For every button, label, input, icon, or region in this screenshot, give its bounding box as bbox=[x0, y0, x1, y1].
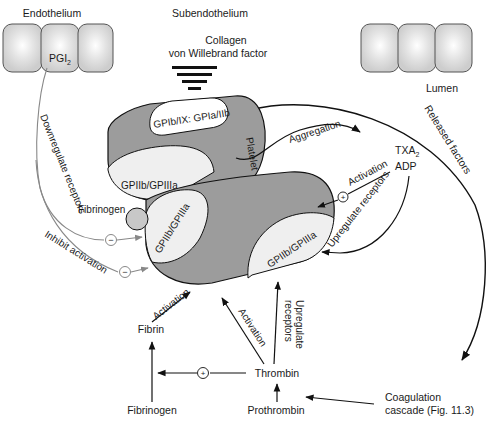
fibrinogen-label: Fibrinogen bbox=[127, 404, 177, 416]
downregulate-arrow bbox=[117, 237, 142, 240]
endothelial-cell bbox=[435, 24, 472, 72]
endothelial-cell bbox=[41, 24, 79, 72]
vwf-label: von Willebrand factor bbox=[169, 47, 268, 59]
inhibit-arrow bbox=[131, 268, 148, 272]
label-subendothelium: Subendothelium bbox=[172, 7, 248, 19]
activation-fibrin-label: Activation bbox=[150, 286, 191, 321]
fibrin-label: Fibrin bbox=[138, 323, 164, 335]
label-endothelium: Endothelium bbox=[23, 7, 82, 19]
adp-label: ADP bbox=[395, 160, 417, 172]
aggregation-label: Aggregation bbox=[287, 118, 342, 145]
released-factors-label: Released factors bbox=[422, 103, 474, 176]
collagen-label: Collagen bbox=[205, 34, 247, 46]
svg-text:+: + bbox=[341, 193, 346, 202]
upregulate-thrombin-arrow bbox=[274, 282, 278, 364]
cascade-arrow bbox=[306, 397, 374, 404]
txa2-label: TXA2 bbox=[395, 144, 419, 158]
upregulate-thrombin-label-1: Upregulate bbox=[294, 300, 305, 349]
endothelial-cell bbox=[78, 24, 113, 72]
cascade-label-1: Coagulation bbox=[385, 391, 441, 403]
svg-text:−: − bbox=[108, 235, 113, 245]
upper-gpiib-label: GPIIb/GPIIIa bbox=[121, 180, 178, 191]
endothelial-cell bbox=[398, 24, 436, 72]
subendothelium-layers-icon bbox=[172, 66, 217, 90]
inhibit-label: Inhibit activation bbox=[43, 228, 110, 275]
thrombin-label: Thrombin bbox=[255, 367, 300, 379]
cascade-label-2: cascade (Fig. 11.3) bbox=[385, 404, 474, 416]
upregulate-thrombin-label-2: receptors bbox=[283, 300, 294, 342]
prothrombin-label: Prothrombin bbox=[247, 404, 304, 416]
platelet-activation-diagram: Endothelium Subendothelium Lumen PGI2 Co… bbox=[0, 0, 493, 422]
endothelial-cell bbox=[3, 24, 42, 72]
endothelial-cells-left bbox=[3, 24, 113, 72]
endothelial-cell bbox=[361, 24, 399, 72]
svg-text:−: − bbox=[122, 267, 127, 277]
fibrinogen-bridge bbox=[126, 208, 148, 230]
downregulate-label: Downregulate receptors bbox=[38, 113, 88, 216]
label-lumen: Lumen bbox=[426, 82, 458, 94]
svg-text:+: + bbox=[201, 369, 206, 378]
endothelial-cells-right bbox=[361, 24, 472, 72]
